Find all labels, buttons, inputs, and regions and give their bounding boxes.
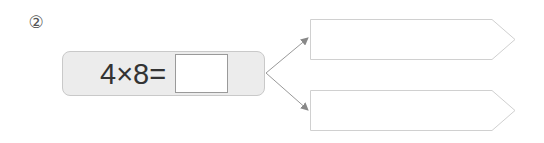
output-box-bottom[interactable] xyxy=(311,91,516,131)
output-box-top[interactable] xyxy=(311,20,516,60)
branch-diagram xyxy=(0,0,544,143)
arrow-down xyxy=(266,73,308,110)
arrow-up xyxy=(266,38,308,73)
